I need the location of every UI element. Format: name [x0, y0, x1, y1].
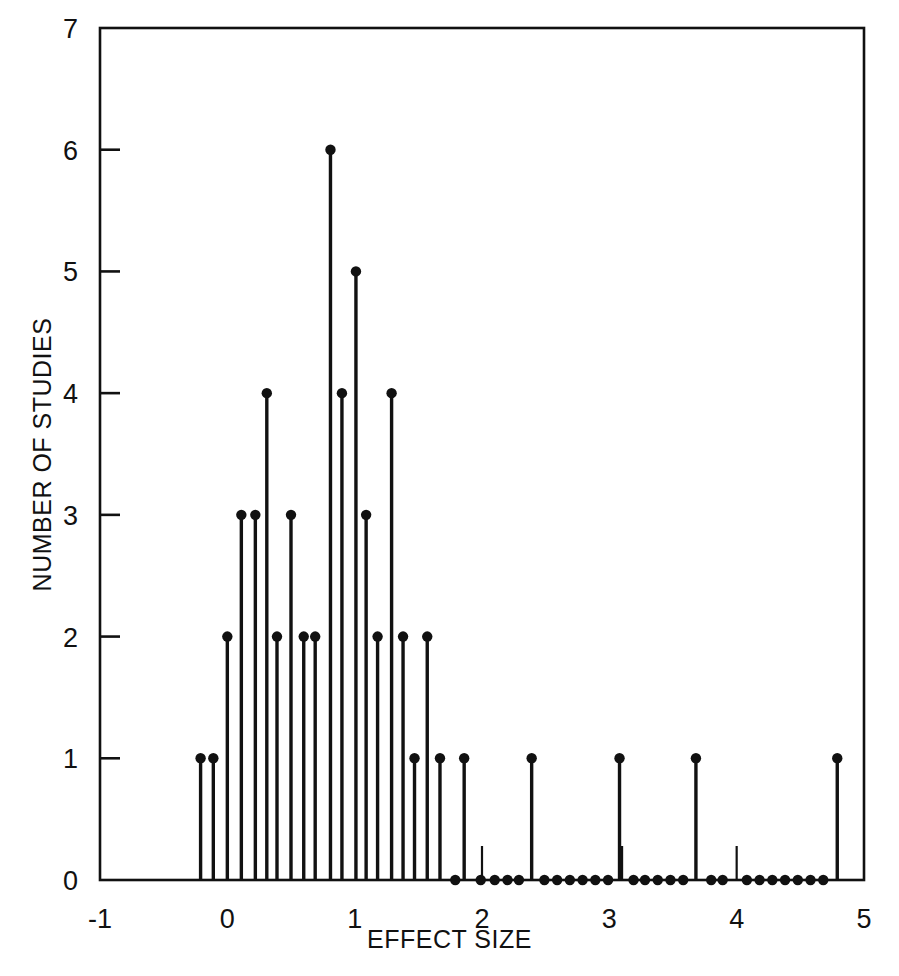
data-point-marker — [502, 875, 512, 885]
data-point-marker — [409, 753, 419, 763]
data-point-marker — [286, 510, 296, 520]
data-point-marker — [435, 753, 445, 763]
data-point-marker — [577, 875, 587, 885]
data-point-marker — [678, 875, 688, 885]
data-point-marker — [262, 388, 272, 398]
data-point-marker — [236, 510, 246, 520]
data-point-marker — [337, 388, 347, 398]
y-tick-label: 2 — [63, 623, 78, 653]
data-point-marker — [372, 631, 382, 641]
data-point-marker — [691, 753, 701, 763]
data-point-marker — [526, 753, 536, 763]
y-tick-label: 6 — [63, 136, 78, 166]
y-tick-label: 3 — [63, 501, 78, 531]
data-point-marker — [361, 510, 371, 520]
data-point-marker — [754, 875, 764, 885]
stem-plot-svg: -1012345 01234567 — [0, 0, 899, 976]
data-point-marker — [590, 875, 600, 885]
y-axis-ticks: 01234567 — [63, 14, 120, 896]
data-point-marker — [640, 875, 650, 885]
data-point-marker — [310, 631, 320, 641]
data-point-marker — [706, 875, 716, 885]
data-point-marker — [398, 631, 408, 641]
data-point-marker — [552, 875, 562, 885]
data-point-marker — [450, 875, 460, 885]
x-axis-minor-ticks — [482, 846, 737, 880]
data-point-marker — [299, 631, 309, 641]
plot-frame — [100, 28, 864, 880]
data-point-marker — [767, 875, 777, 885]
data-point-marker — [780, 875, 790, 885]
y-tick-label: 1 — [63, 744, 78, 774]
data-point-marker — [195, 753, 205, 763]
data-point-marker — [539, 875, 549, 885]
data-point-marker — [614, 753, 624, 763]
data-point-marker — [832, 753, 842, 763]
y-tick-label: 5 — [63, 257, 78, 287]
data-point-marker — [208, 753, 218, 763]
data-point-marker — [476, 875, 486, 885]
data-point-marker — [222, 631, 232, 641]
data-point-marker — [653, 875, 663, 885]
data-point-marker — [386, 388, 396, 398]
data-point-marker — [793, 875, 803, 885]
x-axis-title: EFFECT SIZE — [0, 925, 899, 954]
data-point-marker — [272, 631, 282, 641]
data-point-marker — [459, 753, 469, 763]
data-point-marker — [665, 875, 675, 885]
data-point-marker — [565, 875, 575, 885]
data-point-marker — [250, 510, 260, 520]
data-point-marker — [422, 631, 432, 641]
y-tick-label: 7 — [63, 14, 78, 44]
data-point-marker — [717, 875, 727, 885]
chart-figure: -1012345 01234567 NUMBER OF STUDIES EFFE… — [0, 0, 899, 976]
y-tick-label: 4 — [63, 379, 78, 409]
data-point-marker — [490, 875, 500, 885]
data-point-marker — [628, 875, 638, 885]
data-point-marker — [818, 875, 828, 885]
data-point-marker — [325, 145, 335, 155]
data-point-marker — [805, 875, 815, 885]
data-point-marker — [603, 875, 613, 885]
data-point-marker — [742, 875, 752, 885]
y-axis-title: NUMBER OF STUDIES — [28, 295, 57, 615]
data-point-marker — [514, 875, 524, 885]
data-point-marker — [351, 266, 361, 276]
y-tick-label: 0 — [63, 866, 78, 896]
